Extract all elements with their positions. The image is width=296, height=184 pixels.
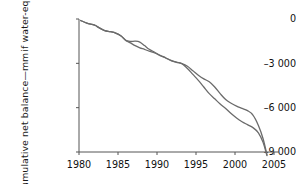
plot-area: [0, 0, 296, 184]
axes-group: [79, 19, 279, 152]
data-series-group: [81, 20, 267, 155]
chart-container: Mean cumulative net balance—mm if water-…: [0, 0, 296, 184]
series-line-series-a: [81, 20, 267, 154]
series-line-series-b: [81, 20, 267, 155]
